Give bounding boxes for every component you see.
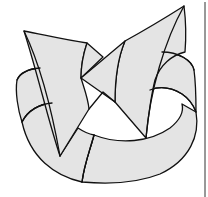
cycle-arrows-illustration (0, 0, 208, 197)
